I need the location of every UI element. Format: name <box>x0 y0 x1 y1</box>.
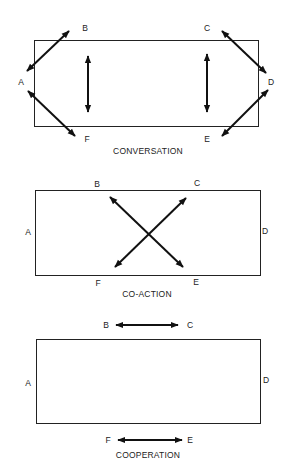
double-arrow-a-f <box>28 91 75 136</box>
double-arrow-d-e <box>222 90 268 136</box>
position-label-b: B <box>82 23 88 33</box>
co-action-diagram: BCADFE CO-ACTION <box>25 178 268 299</box>
position-label-b: B <box>103 320 109 330</box>
position-label-e: E <box>204 134 210 144</box>
position-label-a: A <box>25 378 31 388</box>
position-label-a: A <box>25 227 31 237</box>
position-label-c: C <box>194 178 200 188</box>
position-label-e: E <box>187 435 193 445</box>
position-label-e: E <box>193 277 199 287</box>
interaction-diagrams: BCADFE CONVERSATION BCADFE CO-ACTION BCA… <box>0 0 289 471</box>
double-arrow-b-e <box>110 197 183 267</box>
double-arrow-c-f <box>115 198 186 267</box>
cooperation-labels: BCADFE <box>25 320 269 445</box>
cooperation-diagram: BCADFE COOPERATION <box>25 320 269 460</box>
conversation-table <box>35 41 259 127</box>
cooperation-arrows <box>116 325 182 440</box>
position-label-d: D <box>263 375 269 385</box>
cooperation-caption: COOPERATION <box>116 450 180 460</box>
position-label-b: B <box>94 179 100 189</box>
co-action-caption: CO-ACTION <box>122 289 172 299</box>
double-arrow-a-b <box>27 31 69 71</box>
position-label-a: A <box>18 77 24 87</box>
position-label-f: F <box>84 134 89 144</box>
position-label-f: F <box>105 435 110 445</box>
conversation-diagram: BCADFE CONVERSATION <box>18 23 274 156</box>
position-label-c: C <box>187 320 193 330</box>
position-label-c: C <box>204 23 210 33</box>
conversation-caption: CONVERSATION <box>113 146 183 156</box>
position-label-d: D <box>262 226 268 236</box>
position-label-d: D <box>268 77 274 87</box>
co-action-arrows <box>110 197 186 267</box>
double-arrow-c-d <box>222 31 266 73</box>
position-label-f: F <box>95 278 100 288</box>
diagram-canvas: BCADFE CONVERSATION BCADFE CO-ACTION BCA… <box>0 0 289 471</box>
conversation-labels: BCADFE <box>18 23 274 144</box>
cooperation-table <box>37 340 261 424</box>
conversation-arrows <box>27 31 268 136</box>
